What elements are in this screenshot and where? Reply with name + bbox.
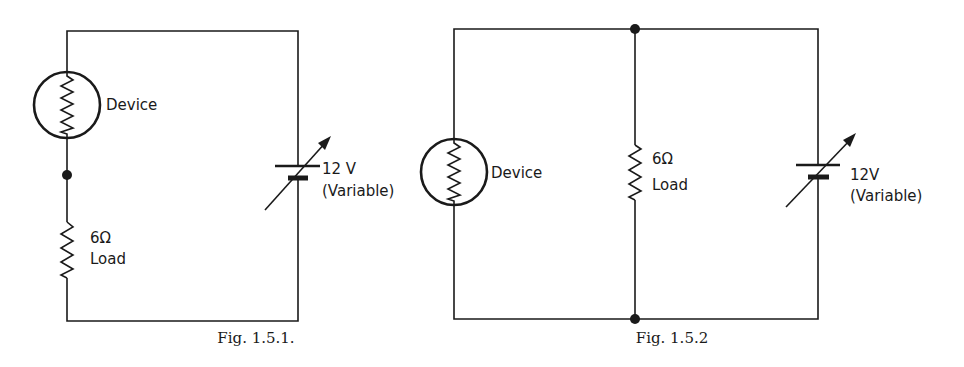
junction-dot: [62, 170, 72, 180]
wire-top-left: [67, 31, 298, 166]
device-circle: [421, 139, 487, 205]
variable-arrow-shaft: [265, 142, 326, 210]
load-label: Load: [652, 176, 688, 194]
source-label: (Variable): [322, 182, 394, 200]
device-label: Device: [106, 96, 157, 114]
source-value: 12 V: [322, 160, 357, 178]
device-resistor-icon: [448, 139, 460, 205]
wire-bottom: [454, 177, 818, 319]
source-value: 12V: [850, 166, 880, 184]
device-resistor-icon: [61, 72, 73, 138]
source-label: (Variable): [850, 187, 922, 205]
device-label: Device: [491, 164, 542, 182]
load-label: Load: [90, 250, 126, 268]
load-resistor-icon: [629, 145, 641, 200]
top-node-dot: [630, 24, 640, 34]
load-value: 6Ω: [90, 229, 111, 247]
wire-top: [454, 29, 818, 165]
variable-battery-icon: [786, 133, 856, 207]
load-resistor-icon: [61, 222, 73, 278]
device-symbol: [34, 72, 100, 138]
bottom-node-dot: [630, 314, 640, 324]
figure-caption: Fig. 1.5.2: [636, 329, 709, 347]
load-value: 6Ω: [652, 150, 673, 168]
figure-1-5-2: Device 6Ω Load 12V (Variable) Fig. 1.5.2: [421, 24, 922, 347]
device-symbol: [421, 139, 487, 205]
circuit-diagrams: Device 6Ω Load 12 V (Variable) Fig. 1.5.…: [0, 0, 964, 367]
figure-1-5-1: Device 6Ω Load 12 V (Variable) Fig. 1.5.…: [34, 31, 394, 347]
device-circle: [34, 72, 100, 138]
figure-caption: Fig. 1.5.1.: [217, 329, 294, 347]
